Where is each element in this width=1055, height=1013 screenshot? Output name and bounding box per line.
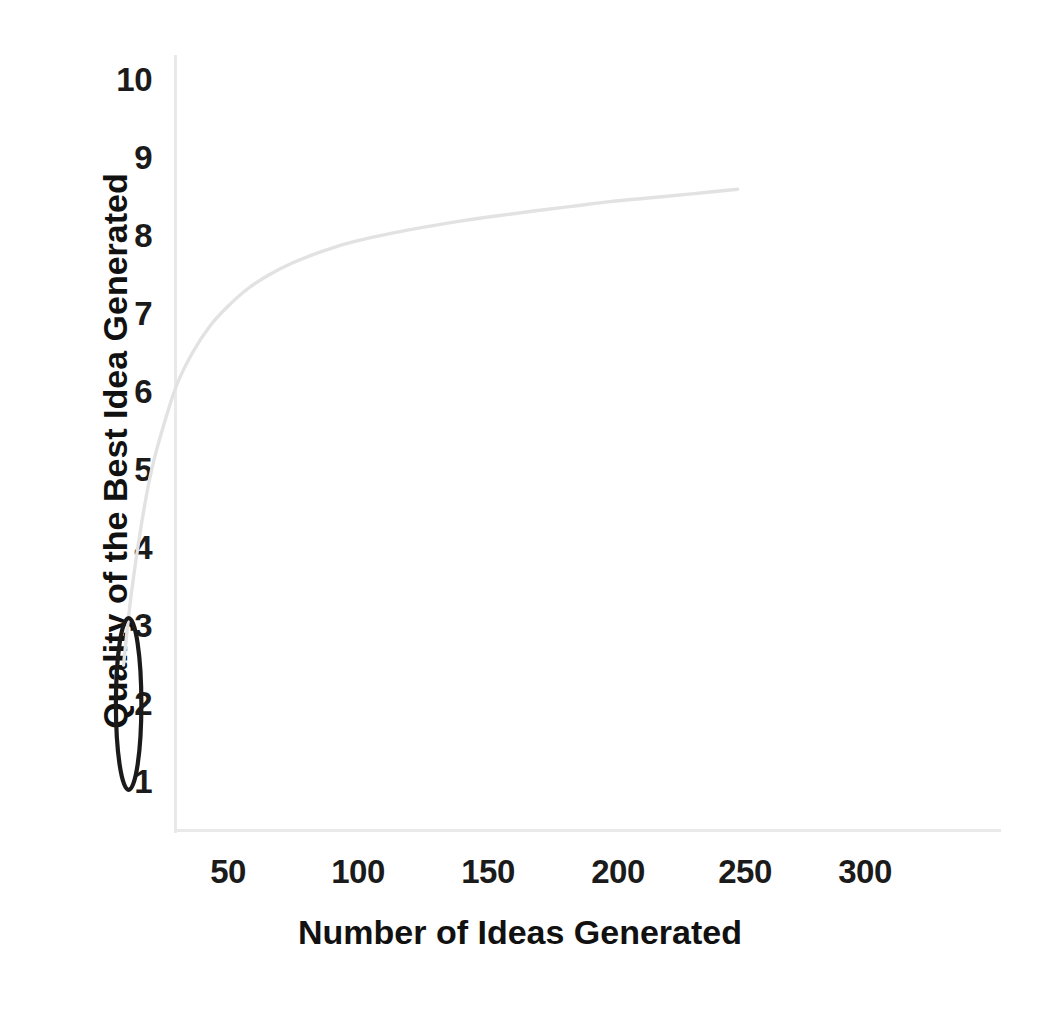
plot-area bbox=[0, 0, 1055, 1013]
early-ideas-ellipse-annotation bbox=[116, 618, 141, 790]
chart-figure: 10 9 8 7 6 5 4 3 2 1 50 100 150 200 250 … bbox=[0, 0, 1055, 1013]
data-series-line bbox=[124, 189, 738, 665]
